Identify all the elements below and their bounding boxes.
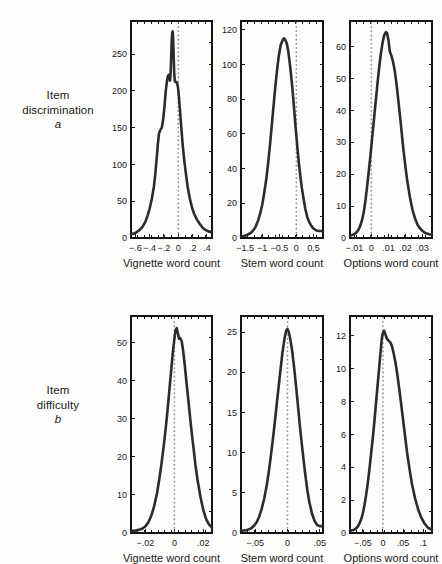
x-axis-title: Options word count <box>344 257 439 269</box>
x-tick-label: −.05 <box>246 538 264 548</box>
x-tick-label: 0 <box>285 538 290 548</box>
y-tick-label: 0 <box>232 233 237 243</box>
x-tick-label: .01 <box>382 243 395 253</box>
y-tick-label: 200 <box>112 86 127 96</box>
y-tick-label: 10 <box>117 490 127 500</box>
y-tick-label: 4 <box>341 462 346 472</box>
x-tick-label: −.4 <box>143 243 156 253</box>
x-tick-label: .02 <box>399 243 412 253</box>
row-label-symbol-a: a <box>6 117 110 132</box>
row-label-line2: discrimination <box>22 104 94 116</box>
row-label-line1: Item <box>47 89 70 101</box>
panel-top-middle: 020406080100120−1.5−1−0.500.5Stem word c… <box>222 21 323 269</box>
panel-frame <box>241 21 323 238</box>
x-tick-label: −0.5 <box>270 243 288 253</box>
x-tick-label: 0 <box>176 243 181 253</box>
x-axis-title: Vignette word count <box>123 257 220 269</box>
y-tick-label: 30 <box>117 414 127 424</box>
y-tick-label: 15 <box>227 408 237 418</box>
x-tick-label: .2 <box>189 243 197 253</box>
row-label-item-difficulty: Item difficulty b <box>6 383 110 427</box>
panel-frame <box>131 316 212 533</box>
row-label-line2: difficulty <box>37 399 79 411</box>
panel-bottom-left: 01020304050−.020.02Vignette word count <box>117 316 220 564</box>
y-tick-label: 0 <box>341 528 346 538</box>
y-tick-label: 20 <box>227 367 237 377</box>
x-axis-title: Stem word count <box>241 552 324 564</box>
y-tick-label: 40 <box>117 376 127 386</box>
y-tick-label: 20 <box>336 169 346 179</box>
x-tick-label: −1 <box>257 243 267 253</box>
x-tick-label: −.01 <box>345 243 363 253</box>
y-tick-label: 0 <box>122 528 127 538</box>
y-tick-label: 30 <box>336 137 346 147</box>
x-tick-label: .05 <box>397 538 410 548</box>
panel-frame <box>350 316 432 533</box>
y-tick-label: 25 <box>227 327 237 337</box>
y-tick-label: 20 <box>227 198 237 208</box>
y-tick-label: 60 <box>336 42 346 52</box>
x-tick-label: 0 <box>172 538 177 548</box>
y-tick-label: 50 <box>117 196 127 206</box>
row-label-item-discrimination: Item discrimination a <box>6 88 110 132</box>
y-tick-label: 50 <box>336 74 346 84</box>
x-tick-label: 0 <box>294 243 299 253</box>
x-axis-title: Options word count <box>344 552 439 564</box>
y-tick-label: 80 <box>227 94 237 104</box>
x-tick-label: .05 <box>314 538 327 548</box>
plots-svg: 050100150200250−.6−.4−.20.2.4Vignette wo… <box>0 0 442 564</box>
density-curve <box>241 38 323 236</box>
y-tick-label: 120 <box>222 25 237 35</box>
x-tick-label: .4 <box>203 243 211 253</box>
y-tick-label: 0 <box>122 233 127 243</box>
density-curve <box>131 328 212 531</box>
panel-top-left: 050100150200250−.6−.4−.20.2.4Vignette wo… <box>112 21 220 269</box>
y-tick-label: 0 <box>232 528 237 538</box>
y-tick-label: 100 <box>112 160 127 170</box>
panel-bottom-right: 024681012−.050.05.1Options word count <box>336 316 438 564</box>
density-curve <box>350 32 432 235</box>
y-tick-label: 10 <box>336 364 346 374</box>
panel-bottom-middle: 0510152025−.050.05Stem word count <box>227 316 326 564</box>
panel-top-right: 0102030405060−.010.01.02.03Options word … <box>336 21 438 269</box>
x-tick-label: 0 <box>369 243 374 253</box>
density-curve <box>131 31 211 234</box>
x-tick-label: 0.5 <box>307 243 320 253</box>
x-axis-title: Vignette word count <box>123 552 220 564</box>
x-tick-label: .1 <box>419 538 427 548</box>
y-tick-label: 40 <box>227 164 237 174</box>
density-curve <box>350 331 432 531</box>
y-tick-label: 100 <box>222 60 237 70</box>
y-tick-label: 50 <box>117 338 127 348</box>
y-tick-label: 10 <box>336 201 346 211</box>
x-tick-label: 0 <box>380 538 385 548</box>
y-tick-label: 12 <box>336 331 346 341</box>
y-tick-label: 8 <box>341 397 346 407</box>
density-curve <box>241 329 323 531</box>
row-label-line1: Item <box>47 384 70 396</box>
y-tick-label: 2 <box>341 495 346 505</box>
x-tick-label: .02 <box>197 538 210 548</box>
y-tick-label: 40 <box>336 106 346 116</box>
x-tick-label: −.02 <box>137 538 155 548</box>
y-tick-label: 5 <box>232 488 237 498</box>
x-tick-label: −.2 <box>158 243 171 253</box>
y-tick-label: 0 <box>341 233 346 243</box>
x-tick-label: −.05 <box>354 538 372 548</box>
x-axis-title: Stem word count <box>241 257 324 269</box>
x-tick-label: −.6 <box>129 243 142 253</box>
y-tick-label: 250 <box>112 49 127 59</box>
y-tick-label: 10 <box>227 448 237 458</box>
x-tick-label: −1.5 <box>236 243 254 253</box>
y-tick-label: 60 <box>227 129 237 139</box>
x-tick-label: .03 <box>416 243 429 253</box>
y-tick-label: 20 <box>117 452 127 462</box>
y-tick-label: 6 <box>341 430 346 440</box>
figure-panel-grid: Item discrimination a Item difficulty b … <box>0 0 442 564</box>
y-tick-label: 150 <box>112 123 127 133</box>
row-label-symbol-b: b <box>6 412 110 427</box>
